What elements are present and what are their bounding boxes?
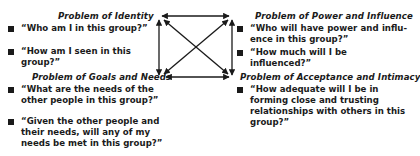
- relationship-arrows: [0, 0, 410, 156]
